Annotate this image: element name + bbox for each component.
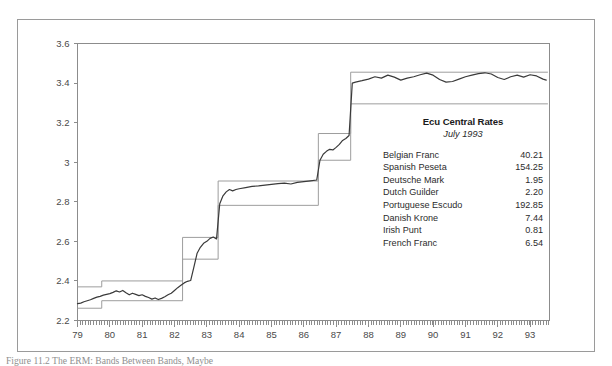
currency-rate: 1.95	[495, 174, 543, 187]
x-tick-label: 84	[234, 329, 245, 340]
y-tick-label: 3	[64, 157, 69, 168]
annotation-subtitle: July 1993	[383, 129, 543, 140]
x-tick-label: 88	[363, 329, 374, 340]
currency-name: Irish Punt	[383, 225, 495, 238]
central-rate-row: Irish Punt0.81	[383, 225, 543, 238]
currency-name: Portuguese Escudo	[383, 199, 495, 212]
x-tick-label: 91	[460, 329, 471, 340]
x-tick-label: 92	[492, 329, 503, 340]
y-tick-label: 2.2	[56, 315, 69, 326]
currency-name: Belgian Franc	[383, 149, 495, 162]
central-rate-row: French Franc6.54	[383, 237, 543, 250]
x-tick-label: 83	[202, 329, 213, 340]
currency-rate: 2.20	[495, 187, 543, 200]
y-tick-label: 2.4	[56, 275, 69, 286]
x-tick-label: 86	[299, 329, 310, 340]
y-tick-label: 3.6	[56, 38, 69, 49]
central-rate-row: Dutch Guilder2.20	[383, 187, 543, 200]
x-tick-label: 90	[428, 329, 439, 340]
y-tick-label: 2.8	[56, 196, 69, 207]
currency-name: Spanish Peseta	[383, 162, 495, 175]
currency-name: Danish Krone	[383, 212, 495, 225]
central-rate-row: Portuguese Escudo192.85	[383, 199, 543, 212]
x-tick-label: 85	[266, 329, 277, 340]
currency-name: Deutsche Mark	[383, 174, 495, 187]
central-rate-row: Danish Krone7.44	[383, 212, 543, 225]
currency-rate: 7.44	[495, 212, 543, 225]
x-tick-label: 79	[72, 329, 83, 340]
currency-rate: 40.21	[495, 149, 543, 162]
x-tick-label: 89	[395, 329, 406, 340]
x-tick-label: 80	[105, 329, 116, 340]
currency-rate: 154.25	[495, 162, 543, 175]
central-rate-row: Spanish Peseta154.25	[383, 162, 543, 175]
currency-rate: 6.54	[495, 237, 543, 250]
y-tick-label: 3.2	[56, 117, 69, 128]
x-tick-label: 82	[169, 329, 180, 340]
ecu-central-rates-annotation: Ecu Central Rates July 1993 Belgian Fran…	[383, 116, 543, 250]
currency-rate: 192.85	[495, 199, 543, 212]
y-tick-label: 2.6	[56, 236, 69, 247]
annotation-title: Ecu Central Rates	[383, 116, 543, 128]
central-rates-table: Belgian Franc40.21Spanish Peseta154.25De…	[383, 149, 543, 250]
currency-name: Dutch Guilder	[383, 187, 495, 200]
currency-rate: 0.81	[495, 225, 543, 238]
x-tick-label: 87	[331, 329, 342, 340]
currency-name: French Franc	[383, 237, 495, 250]
central-rate-row: Deutsche Mark1.95	[383, 174, 543, 187]
central-rate-row: Belgian Franc40.21	[383, 149, 543, 162]
figure-caption: Figure 11.2 The ERM: Bands Between Bands…	[6, 355, 426, 366]
y-tick-label: 3.4	[56, 77, 69, 88]
x-tick-label: 81	[137, 329, 148, 340]
x-tick-label: 93	[525, 329, 536, 340]
